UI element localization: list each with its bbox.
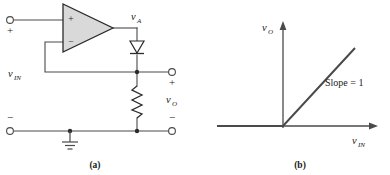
label-v-o-subscript: O (172, 100, 177, 108)
terminal-input-positive[interactable] (7, 17, 14, 24)
input-plus-sign: + (7, 24, 13, 36)
label-v-o-var: v (166, 94, 171, 105)
opamp-inverting-sign: − (68, 37, 73, 47)
chart-xlabel-var: v (352, 135, 357, 146)
chart-ylabel-subscript: O (268, 28, 273, 36)
chart-slope-annotation: Slope = 1 (325, 77, 363, 88)
ground-icon (62, 131, 78, 149)
figure-root: + − + − (0, 0, 390, 175)
node-dot-bottom-right (135, 129, 139, 133)
label-v-o: v O (166, 94, 177, 108)
terminal-output-negative[interactable] (169, 128, 176, 135)
chart-xlabel-subscript: IN (357, 141, 365, 149)
chart-x-axis-arrow (369, 123, 378, 130)
opamp-noninverting-sign: + (68, 14, 73, 24)
label-v-in-subscript: IN (13, 74, 21, 82)
label-v-a-subscript: A (136, 17, 142, 25)
chart-y-axis-arrow (280, 21, 287, 30)
node-dot-output (135, 70, 139, 74)
label-v-in: v IN (8, 68, 21, 82)
circuit-panel: + − + − (7, 4, 177, 171)
terminal-input-negative[interactable] (7, 128, 14, 135)
output-plus-sign: + (169, 76, 175, 88)
diode-icon (130, 41, 144, 53)
label-v-a-var: v (131, 11, 136, 22)
terminal-output-positive[interactable] (169, 69, 176, 76)
figure-canvas: + − + − (0, 0, 390, 175)
chart-ylabel-var: v (262, 22, 267, 33)
resistor-icon (132, 86, 142, 118)
input-minus-sign: − (7, 111, 13, 123)
label-v-in-var: v (8, 68, 13, 79)
output-minus-sign: − (169, 111, 175, 123)
chart-panel: v O v IN Slope = 1 (b) (217, 21, 378, 171)
caption-panel-b: (b) (294, 160, 306, 171)
chart-xlabel: v IN (352, 135, 365, 149)
chart-ylabel: v O (262, 22, 273, 36)
caption-panel-a: (a) (89, 160, 100, 171)
wire-feedback-loop (45, 42, 137, 72)
label-v-a: v A (131, 11, 142, 25)
